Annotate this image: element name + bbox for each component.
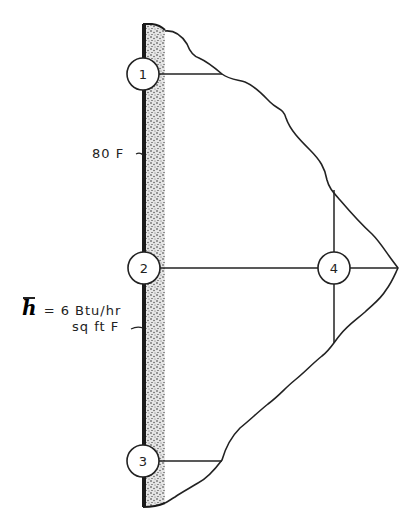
temperature-label: 80 F [92,146,124,161]
node-4: 4 [318,252,350,284]
overbar [23,297,35,299]
h-units: sq ft F [72,319,119,334]
svg-text:1: 1 [139,67,147,82]
node-3: 3 [127,445,159,477]
temperature-leader [136,153,143,155]
svg-text:4: 4 [330,261,338,276]
h-value: = 6 Btu/hr [44,303,122,318]
h-bar-symbol: h [22,296,37,320]
node-2: 2 [128,252,160,284]
distribution-curve [165,31,398,503]
heat-transfer-diagram: 1 2 3 4 [0,0,417,528]
svg-text:2: 2 [140,261,148,276]
node-1: 1 [127,58,159,90]
svg-text:3: 3 [139,454,147,469]
h-leader [131,327,143,329]
heat-transfer-coefficient-label: h = 6 Btu/hr [22,296,121,320]
